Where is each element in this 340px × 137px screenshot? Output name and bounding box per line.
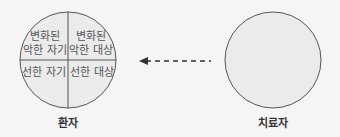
- quadrant-top-right: 변화된 악한 대상: [68, 30, 114, 58]
- therapist-label: 치료자: [243, 114, 303, 130]
- quadrant-top-left: 변화된 악한 자기: [22, 30, 68, 58]
- quadrant-bottom-right: 선한 대상: [68, 66, 116, 80]
- patient-label: 환자: [38, 114, 98, 130]
- quadrant-bottom-left: 선한 자기: [20, 66, 68, 80]
- arrow-head-icon: [139, 57, 148, 65]
- therapist-circle: [225, 12, 321, 108]
